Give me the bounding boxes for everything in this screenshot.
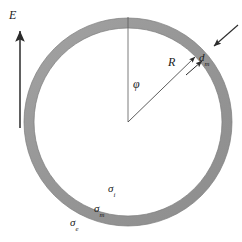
inner-stress-label: σi (108, 183, 115, 194)
thickness-label: dm (199, 52, 209, 63)
radius-label: R (168, 56, 175, 68)
thickness-symbol: d (199, 51, 205, 63)
mid-stress-subscript: m (99, 211, 104, 218)
angle-label: φ (133, 78, 140, 90)
ring-stress-diagram: E R dm φ σi σm σe (0, 0, 242, 242)
thickness-subscript: m (205, 60, 210, 67)
diagram-canvas (0, 0, 242, 242)
electric-field-label: E (9, 9, 16, 21)
mid-stress-label: σm (94, 203, 104, 214)
annulus-ring (0, 0, 242, 242)
outer-stress-label: σe (70, 217, 78, 228)
